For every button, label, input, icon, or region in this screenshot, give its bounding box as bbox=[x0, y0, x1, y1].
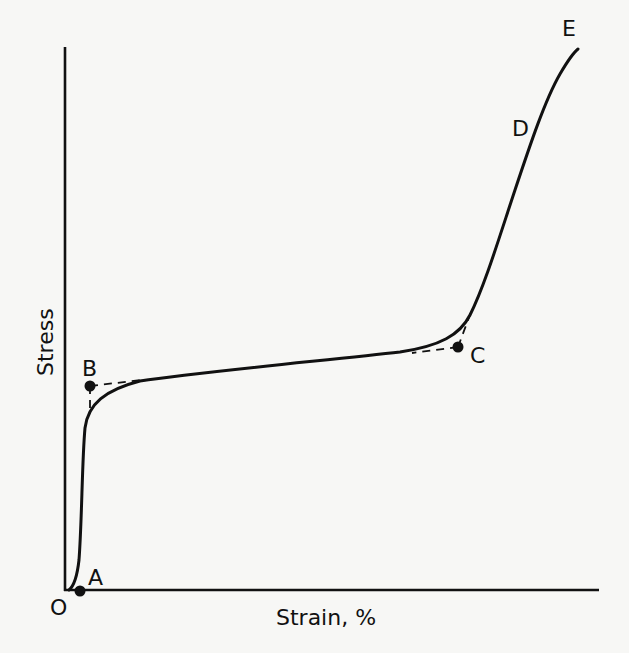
point-d-label: D bbox=[512, 116, 529, 141]
point-a-label: A bbox=[88, 565, 103, 590]
x-axis-title: Strain, % bbox=[276, 605, 376, 630]
origin-label: O bbox=[50, 595, 67, 620]
point-e-label: E bbox=[562, 16, 576, 41]
stress-strain-curve bbox=[69, 49, 578, 590]
point-c-marker bbox=[453, 342, 464, 353]
construction-lines bbox=[90, 312, 471, 414]
point-b-label: B bbox=[82, 356, 97, 381]
stress-strain-chart: O A B C D E Strain, % Stress bbox=[0, 0, 629, 653]
point-c-label: C bbox=[470, 343, 485, 368]
point-b-marker bbox=[85, 381, 96, 392]
point-a-marker bbox=[75, 586, 86, 597]
y-axis-title: Stress bbox=[33, 308, 58, 376]
